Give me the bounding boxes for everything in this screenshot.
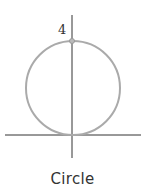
circle-shape xyxy=(26,41,120,135)
point-label: 4 xyxy=(58,22,66,37)
circle-diagram: 4 xyxy=(0,0,145,193)
top-point-marker xyxy=(70,39,75,44)
diagram-caption: Circle xyxy=(0,170,145,188)
